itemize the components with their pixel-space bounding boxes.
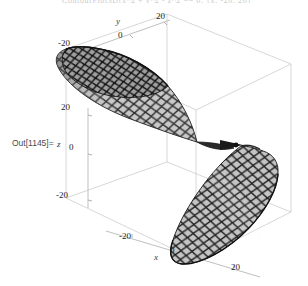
y-tick-label: 20 <box>156 11 166 21</box>
x-tick-label: 0 <box>170 245 175 255</box>
z-axis-label: z <box>56 139 61 149</box>
plot-svg: -20 0 20 -20 0 20 20 0 -20 x y z <box>44 2 308 286</box>
y-tick-label: -20 <box>58 38 70 48</box>
notebook-output-cell: ContourPlot3D[x^2 + y^2 - z^2 == 0, {x, … <box>0 0 308 286</box>
y-axis-ticks: -20 0 20 <box>58 11 166 48</box>
plot-3d-double-cone[interactable]: -20 0 20 -20 0 20 20 0 -20 x y z <box>44 2 308 286</box>
lower-cone-surface <box>154 142 308 272</box>
y-axis-label: y <box>115 16 120 26</box>
x-tick-label: -20 <box>119 231 131 241</box>
y-tick-label: 0 <box>118 30 123 40</box>
z-axis-ticks: 20 0 -20 <box>56 102 74 200</box>
z-tick-label: 20 <box>61 102 71 112</box>
z-tick-label: 0 <box>69 142 74 152</box>
x-axis-label: x <box>153 252 158 262</box>
x-tick-label: 20 <box>231 262 241 272</box>
z-tick-label: -20 <box>56 190 68 200</box>
upper-cone-surface <box>44 32 308 157</box>
